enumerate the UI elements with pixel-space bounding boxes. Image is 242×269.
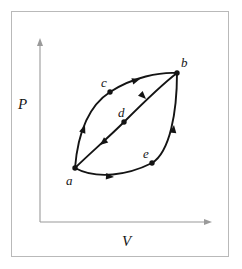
state-point-b	[174, 70, 179, 75]
process-path-lower-path-a-e-b	[75, 73, 177, 175]
pv-diagram-canvas	[0, 0, 242, 269]
state-point-a	[72, 165, 77, 170]
state-point-e	[149, 160, 154, 165]
pressure-axis-arrowhead	[37, 38, 43, 46]
state-point-label-a: a	[66, 174, 73, 187]
state-point-d	[121, 119, 126, 124]
pv-diagram-figure: P V abcde	[0, 0, 242, 269]
state-point-label-e: e	[143, 147, 149, 160]
state-point-label-c: c	[101, 76, 107, 89]
state-point-c	[107, 89, 112, 94]
state-point-label-b: b	[181, 56, 188, 69]
pressure-axis-label: P	[18, 97, 27, 112]
process-paths-group	[75, 73, 177, 175]
state-point-label-d: d	[118, 106, 125, 119]
volume-axis-arrowhead	[204, 219, 212, 225]
process-direction-arrows-group	[79, 76, 177, 180]
volume-axis-label: V	[122, 234, 131, 249]
direction-arrow-upper-path-a-c-b-1	[131, 76, 141, 85]
